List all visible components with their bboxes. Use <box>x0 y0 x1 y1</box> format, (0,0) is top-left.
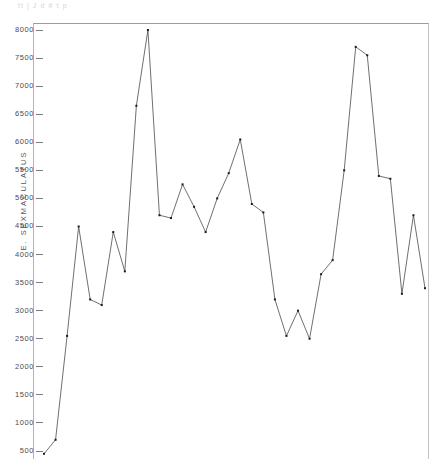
data-point-marker <box>216 197 218 199</box>
data-point-marker <box>89 298 91 300</box>
data-point-marker <box>309 338 311 340</box>
data-point-marker <box>55 439 57 441</box>
data-point-marker <box>274 298 276 300</box>
data-point-marker <box>78 225 80 227</box>
data-point-marker <box>101 304 103 306</box>
data-point-marker <box>366 54 368 56</box>
data-point-marker <box>239 138 241 140</box>
data-point-marker <box>193 206 195 208</box>
data-point-marker <box>401 293 403 295</box>
data-point-marker <box>332 259 334 261</box>
data-point-marker <box>320 273 322 275</box>
data-point-marker <box>205 231 207 233</box>
data-point-marker <box>147 29 149 31</box>
data-point-marker <box>424 287 426 289</box>
data-point-marker <box>378 175 380 177</box>
data-point-marker <box>124 270 126 272</box>
data-point-marker <box>135 105 137 107</box>
series-markers <box>43 29 426 455</box>
data-point-marker <box>170 217 172 219</box>
data-point-marker <box>412 214 414 216</box>
data-point-marker <box>297 310 299 312</box>
data-point-marker <box>343 169 345 171</box>
data-point-marker <box>389 178 391 180</box>
data-point-marker <box>262 211 264 213</box>
data-point-marker <box>66 335 68 337</box>
data-point-marker <box>182 183 184 185</box>
data-point-marker <box>158 214 160 216</box>
data-point-marker <box>251 203 253 205</box>
data-point-marker <box>112 231 114 233</box>
data-point-marker <box>355 46 357 48</box>
data-point-marker <box>228 172 230 174</box>
data-point-marker <box>43 453 45 455</box>
line-series-plot <box>0 0 445 459</box>
series-line <box>44 30 425 454</box>
data-point-marker <box>285 335 287 337</box>
